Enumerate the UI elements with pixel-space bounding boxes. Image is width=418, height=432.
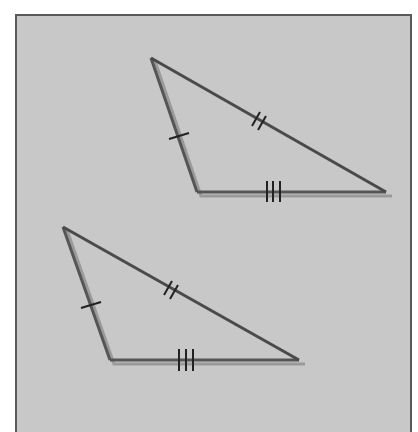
- triangle-top-long-side: [151, 58, 386, 192]
- triangle-bottom: [63, 227, 305, 371]
- triangle-bottom-short-side: [63, 227, 110, 360]
- triangle-top-short-side: [151, 58, 197, 192]
- triangle-bottom-long-side: [63, 227, 299, 360]
- triangle-top: [151, 58, 392, 202]
